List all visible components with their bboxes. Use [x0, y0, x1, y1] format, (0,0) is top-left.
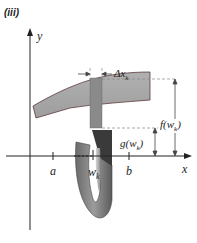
w-sub: k	[96, 172, 100, 181]
slice-strip	[90, 78, 102, 128]
g-arrows	[153, 128, 157, 156]
w-text: w	[88, 165, 96, 179]
delta-x-label: Δxk	[114, 68, 128, 82]
tick-label-wk: wk	[88, 166, 100, 181]
x-axis-label: x	[182, 163, 187, 175]
delta-x-text: Δx	[114, 67, 125, 79]
f-label: f(wk)	[160, 119, 181, 133]
g-label: g(wk)	[120, 138, 143, 152]
slab-cross-section	[33, 72, 150, 128]
y-axis-label: y	[37, 30, 42, 42]
tick-label-b: b	[126, 165, 132, 177]
tick-label-a: a	[50, 165, 56, 177]
delta-x-sub: k	[125, 74, 128, 82]
g-close: )	[140, 137, 144, 149]
delta-x-arrows	[78, 72, 112, 76]
f-close: )	[177, 118, 181, 130]
g-text: g(w	[120, 137, 137, 149]
f-text: f(w	[160, 118, 174, 130]
